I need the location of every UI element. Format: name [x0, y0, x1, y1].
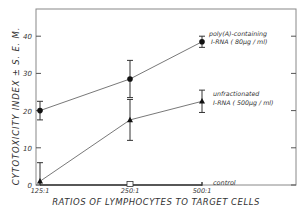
series-line: [40, 101, 202, 181]
chart: 010203040125:1250:1500:1RATIOS OF LYMPHO…: [0, 0, 306, 217]
x-axis-label: RATIOS OF LYMPHOCYTES TO TARGET CELLS: [52, 197, 260, 207]
series-label-poly-a: poly(A)-containing: [208, 30, 267, 38]
series-line: [40, 42, 202, 111]
y-tick-label: 40: [23, 33, 32, 41]
y-tick-label: 20: [23, 108, 32, 116]
series-label-unfractionated: unfractionated: [213, 90, 260, 97]
series-label-poly-a-conc: I-RNA ( 80µg / ml): [211, 38, 267, 46]
y-tick-label: 10: [23, 145, 32, 153]
series-label-unfractionated-conc: I-RNA ( 500µg / ml): [213, 99, 273, 107]
y-tick-label: 30: [23, 70, 32, 78]
marker-circle: [37, 108, 43, 114]
marker-triangle: [37, 178, 43, 184]
marker-square: [127, 182, 133, 187]
series-label-control: control: [213, 179, 236, 187]
marker-circle: [127, 76, 133, 82]
x-tick-label: 250:1: [121, 187, 140, 195]
marker-circle: [199, 39, 205, 45]
marker-triangle: [199, 98, 205, 104]
x-tick-label: 500:1: [193, 187, 212, 195]
x-tick-label: 125:1: [31, 187, 50, 195]
y-axis-label: CYTOTOXICITY INDEX ± S. E. M.: [11, 27, 21, 185]
